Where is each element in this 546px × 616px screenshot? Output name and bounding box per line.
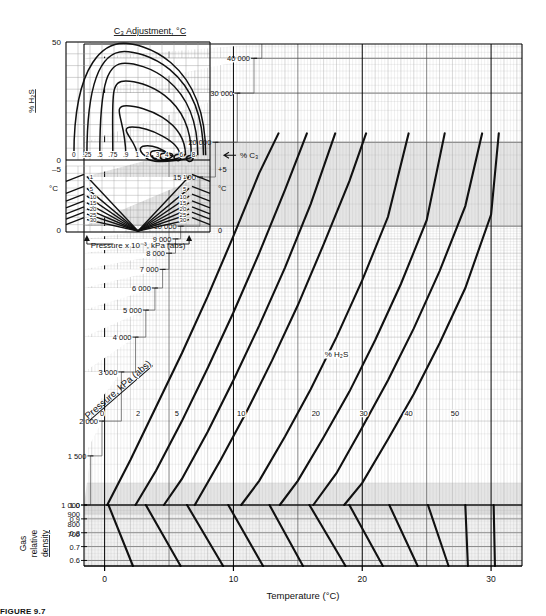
inset-h2s-tick: 50 (52, 38, 61, 47)
c3-contour-label: 4 (165, 151, 169, 158)
pressure-tick-label: 40 000 (227, 54, 250, 63)
h2s-curve-label: 40 (404, 409, 412, 418)
density-tick-label: 0.9 (70, 515, 80, 524)
h2s-curve-label: 10 (237, 409, 245, 418)
c3-contour-label: 2 (146, 151, 150, 158)
pressure-tick-label: 7 000 (140, 265, 159, 274)
c3-axis-label: % C₃ (240, 151, 258, 160)
c3-contour-label: .9 (123, 151, 129, 158)
figure-caption: FIGURE 9.7 (0, 607, 46, 616)
inset-minus5-tick: –5 (52, 165, 61, 174)
density-axis-title: relative (29, 530, 39, 558)
temperature-axis-title: Temperature (°C) (267, 590, 340, 601)
c3-contour-label: 0 (72, 151, 76, 158)
pressure-tick-label: 20 000 (188, 138, 211, 147)
fan-line-label: 10 (180, 194, 187, 200)
inset-pressure-label: Pressure x 10⁻³, kPa (abs) (91, 241, 186, 250)
h2s-series-label: % H₂S (325, 350, 349, 359)
inset-celsius-label-right: °C (218, 184, 227, 193)
fan-line-label: 10 (90, 194, 97, 200)
c3-contour-label: 1 (135, 151, 139, 158)
inset-zero-tick-right: 0 (218, 226, 222, 235)
inset-plus5-tick: +5 (218, 165, 227, 174)
fan-line-label: 30 (90, 217, 97, 223)
c3-contour-label: 8 (192, 151, 196, 158)
c3-contour-label: 6 (179, 151, 183, 158)
density-axis-title: density (40, 529, 50, 557)
h2s-curve-label: 20 (312, 409, 320, 418)
pressure-tick-label: 5 000 (123, 306, 142, 315)
pressure-tick-label: 4 000 (113, 333, 132, 342)
pressure-tick-label: 30 000 (210, 89, 233, 98)
inset-h2s-tick: 0 (57, 156, 62, 165)
h2s-curve-label: 30 (359, 409, 367, 418)
temperature-tick-label: 0 (102, 574, 107, 584)
density-tick-label: 1.0 (70, 501, 80, 510)
density-tick-label: 0.7 (70, 543, 80, 552)
temperature-tick-label: 30 (486, 574, 496, 584)
density-tick-label: 0.8 (70, 529, 80, 538)
h2s-curve-label: 2 (136, 409, 140, 418)
h2s-curve-label: 50 (451, 409, 459, 418)
density-line (494, 505, 495, 566)
inset-zero-tick: 0 (57, 226, 62, 235)
page-background (0, 0, 546, 616)
temperature-tick-label: 20 (358, 574, 368, 584)
h2s-curve-label: 5 (175, 409, 179, 418)
inset-h2s-axis-title: % H₂S (27, 89, 36, 113)
inset-celsius-label: °C (49, 184, 58, 193)
density-axis-title: Gas (18, 536, 28, 552)
figure-root: 0251020304050% H₂S40 00030 00020 00015 0… (0, 0, 546, 616)
c3-contour-label: .5 (97, 151, 103, 158)
pressure-tick-label: 8 000 (146, 249, 165, 258)
c3-contour-label: .75 (108, 151, 117, 158)
nomograph-svg: 0251020304050% H₂S40 00030 00020 00015 0… (0, 0, 546, 616)
c3-contour-label: 3 (156, 151, 160, 158)
pressure-tick-label: 1 500 (68, 452, 87, 461)
c3-contour-label: .25 (82, 151, 91, 158)
pressure-tick-label: 3 000 (99, 368, 118, 377)
pressure-tick-label: 6 000 (132, 284, 151, 293)
fan-line-label: 30 (180, 217, 187, 223)
density-tick-label: 0.6 (70, 556, 80, 565)
temperature-tick-label: 10 (229, 574, 239, 584)
inset-title: C₃ Adjustment, °C (114, 26, 187, 36)
